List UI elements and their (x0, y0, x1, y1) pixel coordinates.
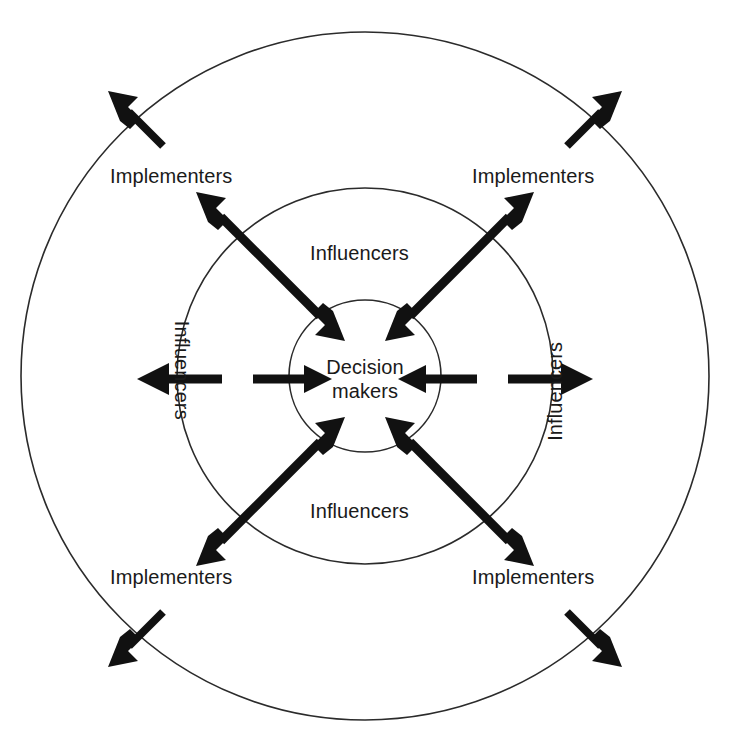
label-implementers-top-left: Implementers (110, 165, 232, 189)
arrow-edge-bottom-left (108, 612, 163, 667)
arrow-diagonal-bottom-left (196, 417, 345, 566)
influence-model-diagram: Decision makers Influencers Influencers … (0, 0, 729, 753)
label-implementers-bottom-left: Implementers (110, 566, 232, 590)
label-influencers-left: Influencers (169, 321, 193, 441)
arrow-edge-bottom-right (567, 612, 622, 667)
label-influencers-bottom: Influencers (310, 500, 409, 524)
center-label-line-1: Decision (300, 355, 430, 379)
arrow-diagonal-bottom-right (385, 417, 534, 566)
label-implementers-bottom-right: Implementers (472, 566, 594, 590)
center-label-line-2: makers (300, 379, 430, 403)
center-label-decision-makers: Decision makers (300, 355, 430, 403)
label-influencers-top: Influencers (310, 242, 409, 266)
label-influencers-right: Influencers (544, 321, 568, 441)
label-implementers-top-right: Implementers (472, 165, 594, 189)
